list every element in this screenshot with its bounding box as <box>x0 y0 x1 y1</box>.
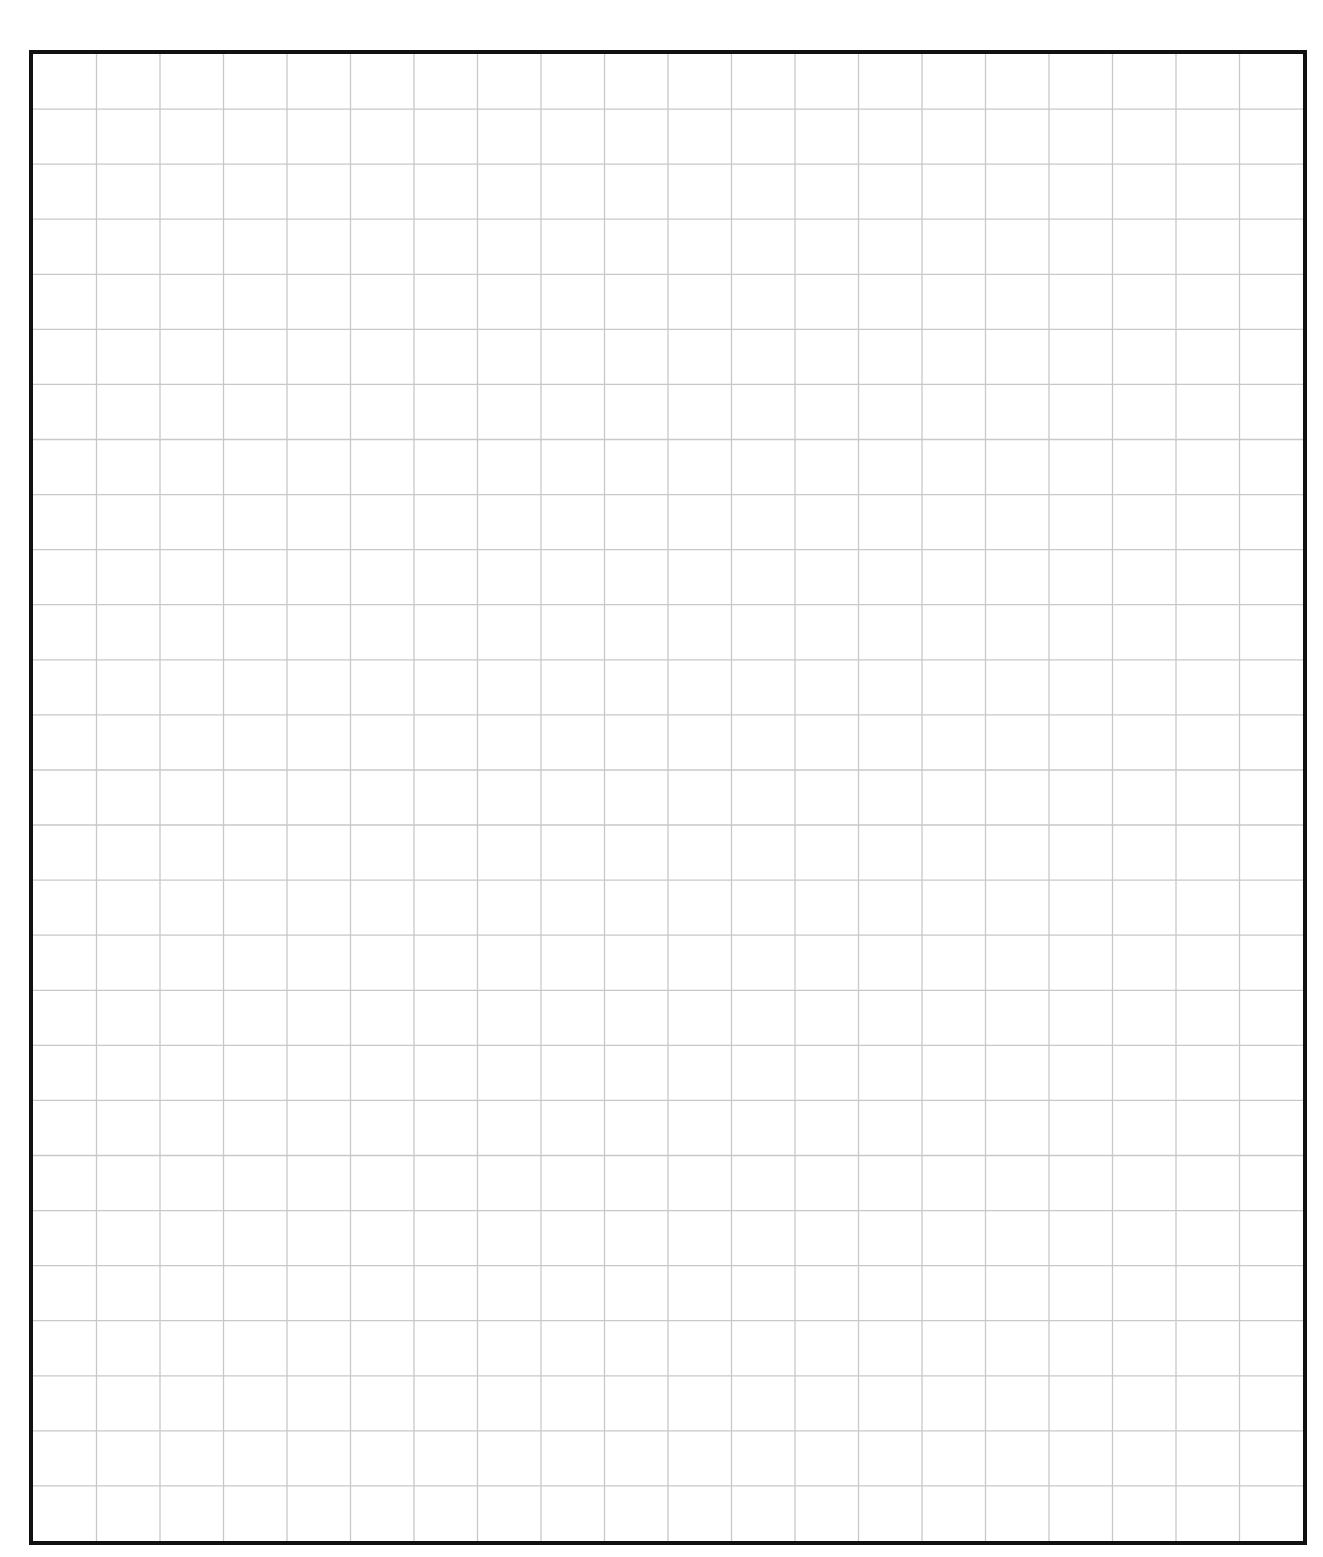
graph-paper-grid <box>29 50 1307 1545</box>
grid-lines <box>33 54 1303 1541</box>
